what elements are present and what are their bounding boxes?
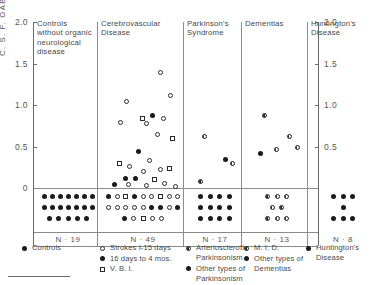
undetectable-point (175, 194, 180, 199)
undetectable-point (217, 205, 222, 210)
data-point (161, 116, 166, 121)
undetectable-point (279, 205, 284, 210)
legend-marker-glyph (244, 246, 249, 251)
undetectable-point (122, 216, 127, 221)
undetectable-point (208, 205, 213, 210)
legend-item: Huntington's Disease (306, 243, 370, 263)
legend-marker-half-icon (186, 246, 192, 252)
band-left-edge (33, 188, 34, 246)
undetectable-point (123, 194, 128, 199)
undetectable-point (141, 194, 146, 199)
data-point (223, 157, 228, 162)
y-tick-mark-right (315, 105, 319, 106)
undetectable-point (141, 205, 146, 210)
undetectable-point (158, 194, 163, 199)
undetectable-point (150, 216, 155, 221)
undetectable-point (50, 205, 55, 210)
y-tick-label-right-3: 0.5 (324, 142, 337, 152)
legend-marker-filled-icon (100, 256, 106, 262)
undetectable-point (50, 194, 55, 199)
undetectable-point (82, 194, 87, 199)
data-point (118, 120, 123, 125)
panel-header-line: Controls (37, 19, 99, 28)
undetectable-point (227, 205, 232, 210)
y-tick-mark-left (33, 147, 37, 148)
y-tick-label-left-3: 0.5 (6, 142, 28, 152)
panel-header-line: Dementias (245, 19, 309, 28)
undetectable-point (106, 205, 111, 210)
legend-marker-square-icon (100, 267, 106, 273)
data-point (170, 136, 175, 141)
undetectable-point (56, 216, 61, 221)
undetectable-point (123, 205, 128, 210)
legend-marker-glyph (100, 267, 105, 272)
data-point (117, 161, 122, 166)
panel-header-0: Controlswithout organicneurologicaldisea… (37, 19, 99, 57)
undetectable-point (198, 216, 203, 221)
undetectable-point (341, 216, 346, 221)
undetectable-band-bottom (33, 232, 318, 233)
undetectable-point (284, 216, 289, 221)
legend-label: 16 days to 4 mos. (110, 254, 172, 264)
data-point (133, 176, 138, 181)
data-point (144, 121, 149, 126)
undetectable-point (275, 194, 280, 199)
undetectable-point (265, 194, 270, 199)
panel-header-1: CerebrovascularDisease (101, 19, 185, 38)
undetectable-point (149, 194, 154, 199)
data-point (155, 132, 160, 137)
y-tick-mark-right (315, 147, 319, 148)
data-point (168, 93, 173, 98)
legend-label: Controls (32, 243, 61, 253)
undetectable-point (90, 194, 95, 199)
undetectable-point (66, 205, 71, 210)
undetectable-point (270, 205, 275, 210)
data-point (230, 161, 235, 166)
legend-marker-glyph (100, 256, 105, 261)
undetectable-point (84, 216, 89, 221)
y-tick-mark-left (33, 64, 37, 65)
undetectable-point (341, 194, 346, 199)
legend-group-1: Strokes I-15 days16 days to 4 mos.V. B. … (100, 243, 180, 275)
undetectable-point (58, 205, 63, 210)
undetectable-point (47, 216, 52, 221)
legend-label: M. I. D. (254, 243, 279, 253)
panel-header-line: Disease (311, 28, 370, 37)
undetectable-point (141, 216, 146, 221)
data-point (152, 177, 157, 182)
undetectable-point (284, 194, 289, 199)
undetectable-point (58, 194, 63, 199)
y-tick-label-right-2: 1.0 (324, 100, 337, 110)
data-point (198, 179, 203, 184)
undetectable-point (331, 194, 336, 199)
undetectable-point (217, 216, 222, 221)
undetectable-point (350, 216, 355, 221)
undetectable-point (331, 216, 336, 221)
undetectable-point (265, 216, 270, 221)
y-tick-label-right-1: 1.5 (324, 59, 337, 69)
panel-header-line: without organic (37, 28, 99, 37)
undetectable-point (66, 194, 71, 199)
y-tick-label-left-1: 1.5 (6, 59, 28, 69)
undetectable-point (149, 205, 154, 210)
legend-label: V. B. I. (110, 264, 133, 274)
footer-rule (8, 276, 70, 277)
data-point (140, 116, 145, 121)
legend-item: Controls (22, 243, 102, 253)
undetectable-point (74, 194, 79, 199)
undetectable-point (198, 194, 203, 199)
undetectable-point (66, 216, 71, 221)
undetectable-point (42, 194, 47, 199)
panel-divider-2 (183, 22, 184, 246)
legend-marker-half-icon (244, 246, 250, 252)
undetectable-point (82, 205, 87, 210)
undetectable-point (208, 194, 213, 199)
undetectable-point (106, 194, 111, 199)
panel-header-line: Parkinson's (187, 19, 243, 28)
legend-marker-glyph (186, 246, 191, 251)
data-point (123, 176, 128, 181)
undetectable-point (208, 216, 213, 221)
undetectable-point (75, 216, 80, 221)
legend-marker-glyph (306, 246, 311, 251)
undetectable-point (132, 194, 137, 199)
